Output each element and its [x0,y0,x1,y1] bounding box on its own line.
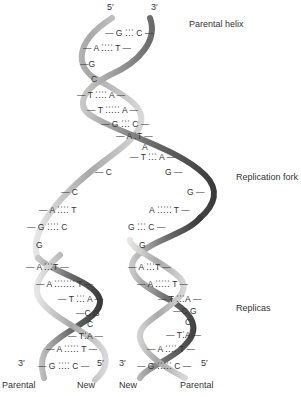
end-marker-right-replica-bottom-right: 5′ [201,358,208,368]
end-marker-top-left: 5′ [107,2,114,12]
base-pair: C [87,319,93,329]
base-pair: — A ⁚⁚⁚⁚ T [39,205,76,215]
base-pair: G [36,240,43,250]
base-pair: — A ⁚T — [116,131,153,141]
end-marker-left-replica-bottom-right: 5′ [97,358,104,368]
base-pair: A [142,142,148,152]
base-pair: — T ⁚⁚⁚ A — [130,152,175,162]
end-marker-left-replica-bottom-left: 3′ [18,358,25,368]
base-pair: — A ⁚⁚⁚T — [26,262,69,272]
base-pair: — A ⁚⁚⁚⁚⁚ T — [46,344,97,354]
dna-replication-diagram: 5′ 3′ 3′ 5′ 3′ 5′ Parental helix Replica… [0,0,301,397]
base-pair: — A ⁚⁚⁚⁚ T — [147,344,195,354]
base-pair: — G ⁚⁚⁚⁚ C — [38,361,89,371]
left-replica-strand-parental [38,258,100,378]
fork-base-left: — C [95,167,112,177]
fork-base-right: G — [165,167,182,177]
base-pair: C [91,74,97,84]
base-pair: —C G [76,308,100,318]
base-pair: — G ⁚⁚⁚ C — [105,28,153,38]
base-pair: G [139,240,146,250]
label-parental-helix: Parental helix [189,19,244,29]
label-left-replica-parental: Parental [2,380,36,390]
fork-base-left: — C [61,187,78,197]
base-pair: — A ⁚⁚⁚⁚⁚⁚⁚ T — [36,279,93,289]
base-pair: — A ⁚⁚⁚⁚ T — [83,43,131,53]
label-right-replica-new: New [119,380,137,390]
base-pair: — G ⁚⁚⁚⁚ C [27,222,67,232]
end-marker-top-right: 3′ [151,2,158,12]
dna-helix-ribbons [0,0,301,397]
base-pair: G ⁚⁚⁚ C — [128,222,165,232]
label-right-replica-parental: Parental [180,380,214,390]
base-pair: — T⁚A — [166,330,201,340]
base-pair: —C G [173,306,197,316]
base-pair: — T ⁚⁚⁚A — [158,294,201,304]
base-pair: — T ⁚⁚⁚ A — [58,294,103,304]
fork-base-right: G — [187,187,204,197]
label-replicas: Replicas [236,303,271,313]
base-pair: — G ⁚⁚⁚ C — [101,119,149,129]
base-pair: — G ⁚⁚⁚⁚⁚ C — [137,361,191,371]
end-marker-right-replica-bottom-left: 3′ [119,358,126,368]
base-pair: — A ⁚⁚⁚T — [128,262,171,272]
base-pair: — T⁚A — [68,331,103,341]
base-pair: —G [80,59,95,69]
label-left-replica-new: New [77,380,95,390]
base-pair: C [185,317,191,327]
base-pair: — A ⁚⁚⁚⁚⁚ T — [137,279,188,289]
base-pair: A ⁚⁚⁚⁚⁚ T — [149,205,190,215]
base-pair: — T ⁚⁚⁚⁚⁚ A — [87,105,138,115]
base-pair: — T ⁚⁚⁚⁚ A — [77,90,125,100]
label-replication-fork: Replication fork [236,172,298,182]
